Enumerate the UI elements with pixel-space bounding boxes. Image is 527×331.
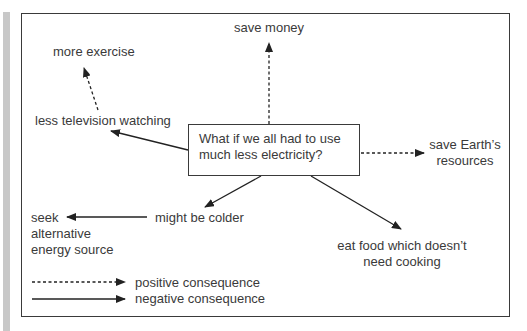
central-question-line-2: much less electricity? <box>199 147 359 163</box>
central-question-box: What if we all had to use much less elec… <box>188 124 360 176</box>
arrow-to-less-tv <box>111 131 188 150</box>
legend-positive-label: positive consequence <box>135 275 260 291</box>
node-save-money: save money <box>234 20 304 36</box>
node-seek-alternative: seek alternative energy source <box>31 210 113 258</box>
node-more-exercise: more exercise <box>53 44 135 60</box>
eat-food-line-2: need cooking <box>330 254 474 270</box>
arrow-to-might-be-colder <box>205 176 261 207</box>
save-resources-line-1: save Earth’s <box>420 137 510 153</box>
arrow-to-more-exercise <box>84 68 98 110</box>
save-resources-line-2: resources <box>420 153 510 169</box>
node-less-tv: less television watching <box>35 113 171 129</box>
arrow-to-eat-food <box>311 176 401 229</box>
legend-negative-label: negative consequence <box>135 291 265 307</box>
seek-line-1: seek <box>31 210 113 226</box>
seek-line-2: alternative <box>31 226 113 242</box>
node-might-be-colder: might be colder <box>155 210 244 226</box>
eat-food-line-1: eat food which doesn’t <box>330 238 474 254</box>
central-question-line-1: What if we all had to use <box>199 131 359 147</box>
node-save-resources: save Earth’s resources <box>420 137 510 169</box>
seek-line-3: energy source <box>31 242 113 258</box>
node-eat-food: eat food which doesn’t need cooking <box>330 238 474 270</box>
